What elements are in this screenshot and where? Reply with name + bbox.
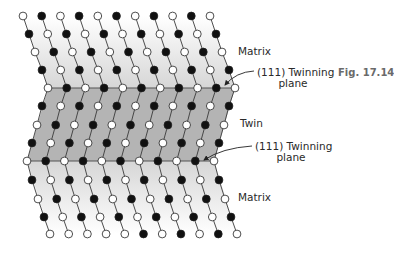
atom-black-icon [63, 84, 71, 92]
atom-white-icon [208, 213, 216, 221]
label-twinning-plane-bottom: (111) Twinning plane [255, 141, 327, 163]
twinning-diagram [0, 0, 394, 253]
atom-white-icon [81, 30, 89, 38]
atom-black-icon [113, 102, 121, 110]
atom-black-icon [28, 139, 36, 147]
atom-black-icon [76, 66, 84, 74]
atom-white-icon [181, 48, 189, 56]
atom-black-icon [150, 66, 158, 74]
atom-black-icon [140, 230, 148, 238]
atom-black-icon [52, 121, 60, 129]
atom-white-icon [57, 66, 65, 74]
atom-white-icon [109, 195, 117, 203]
atom-black-icon [152, 213, 160, 221]
atom-white-icon [231, 84, 239, 92]
atom-white-icon [34, 195, 42, 203]
atom-white-icon [94, 102, 102, 110]
atom-white-icon [183, 121, 191, 129]
atom-black-icon [225, 66, 233, 74]
atom-white-icon [143, 48, 151, 56]
atom-black-icon [215, 139, 223, 147]
atom-white-icon [57, 102, 65, 110]
atom-white-icon [135, 157, 143, 165]
atom-white-icon [61, 157, 69, 165]
atom-white-icon [156, 84, 164, 92]
atom-white-icon [122, 139, 130, 147]
atom-white-icon [59, 213, 67, 221]
atom-black-icon [140, 176, 148, 184]
atom-black-icon [188, 66, 196, 74]
atom-black-icon [103, 176, 111, 184]
atom-white-icon [84, 176, 92, 184]
atom-black-icon [89, 121, 97, 129]
label-matrix-top: Matrix [238, 46, 271, 57]
atom-white-icon [47, 139, 55, 147]
atom-black-icon [165, 195, 173, 203]
atom-white-icon [184, 195, 192, 203]
atom-white-icon [23, 157, 31, 165]
atom-white-icon [156, 30, 164, 38]
atom-white-icon [169, 12, 177, 20]
atom-black-icon [227, 213, 235, 221]
atom-white-icon [46, 230, 54, 238]
atom-white-icon [206, 66, 214, 74]
atom-black-icon [38, 102, 46, 110]
atom-white-icon [106, 48, 114, 56]
atom-black-icon [113, 12, 121, 20]
atom-white-icon [193, 30, 201, 38]
atom-black-icon [100, 30, 108, 38]
atom-black-icon [212, 84, 220, 92]
atom-white-icon [206, 102, 214, 110]
atom-black-icon [66, 139, 74, 147]
atom-black-icon [178, 176, 186, 184]
atom-black-icon [38, 66, 46, 74]
atom-white-icon [220, 121, 228, 129]
atom-white-icon [119, 30, 127, 38]
atom-black-icon [154, 157, 162, 165]
atom-white-icon [196, 176, 204, 184]
atom-black-icon [79, 157, 87, 165]
atom-white-icon [122, 176, 130, 184]
atom-black-icon [128, 195, 136, 203]
atom-black-icon [140, 139, 148, 147]
atom-white-icon [44, 30, 52, 38]
atom-black-icon [199, 48, 207, 56]
atom-white-icon [94, 66, 102, 74]
atom-black-icon [40, 213, 48, 221]
atom-black-icon [225, 102, 233, 110]
atom-black-icon [188, 102, 196, 110]
atom-white-icon [131, 12, 139, 20]
atom-white-icon [158, 230, 166, 238]
atom-white-icon [169, 102, 177, 110]
atom-black-icon [100, 84, 108, 92]
atom-black-icon [25, 30, 33, 38]
atom-white-icon [132, 102, 140, 110]
atom-black-icon [75, 12, 83, 20]
label-twinning-plane-top-line2: plane [257, 78, 329, 89]
atom-black-icon [115, 213, 123, 221]
atom-white-icon [98, 157, 106, 165]
atom-white-icon [121, 230, 129, 238]
atom-white-icon [82, 84, 90, 92]
atom-white-icon [71, 121, 79, 129]
atom-white-icon [169, 66, 177, 74]
atom-white-icon [171, 213, 179, 221]
atom-white-icon [218, 48, 226, 56]
atom-white-icon [146, 195, 154, 203]
atom-black-icon [63, 30, 71, 38]
atom-black-icon [87, 48, 95, 56]
atom-white-icon [57, 12, 65, 20]
atom-white-icon [19, 12, 27, 20]
atom-white-icon [94, 12, 102, 20]
atom-white-icon [33, 121, 41, 129]
atom-white-icon [134, 213, 142, 221]
atom-black-icon [42, 157, 50, 165]
atom-black-icon [150, 12, 158, 20]
atom-black-icon [125, 48, 133, 56]
atom-black-icon [28, 176, 36, 184]
atom-black-icon [202, 195, 210, 203]
atom-black-icon [38, 12, 46, 20]
atom-black-icon [138, 84, 146, 92]
atom-white-icon [196, 139, 204, 147]
atom-black-icon [201, 121, 209, 129]
